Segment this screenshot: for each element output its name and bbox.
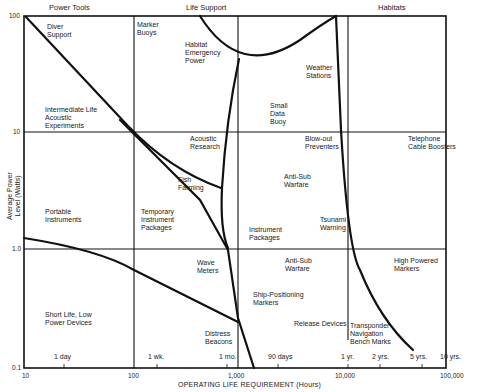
- region-temporary-instrument-packages: Temporary Instrument Packages: [141, 208, 174, 232]
- region-telephone-cable-boosters: Telephone Cable Boosters: [408, 135, 456, 151]
- region-marker-buoys: Marker Buoys: [137, 21, 159, 37]
- region-anti-sub-warfare-lower: Anti-Sub Warfare: [285, 257, 312, 273]
- power-vs-life-chart: Power Tools Life Support Habitats 100 10…: [0, 0, 480, 392]
- y-axis-label: Average Power Level (Watts): [6, 164, 22, 228]
- region-habitat-emergency-power: Habitat Emergency Power: [185, 41, 220, 65]
- x-axis-label: OPERATING LIFE REQUIREMENT (Hours): [178, 381, 321, 388]
- header-habitats: Habitats: [378, 3, 406, 12]
- region-small-data-buoy: Small Data Buoy: [270, 102, 288, 126]
- y-tick-0-1: 0.1: [12, 364, 21, 371]
- x-tick-100000: 100,000: [440, 372, 464, 379]
- x-tick-1000: 1,000: [228, 372, 244, 379]
- region-intermediate-life-acoustic: Intermediate Life Acoustic Experiments: [45, 106, 97, 130]
- region-high-powered-markers: High Powered Markers: [394, 257, 438, 273]
- lower-curve: [24, 238, 238, 322]
- region-weather-stations: Weather Stations: [306, 64, 332, 80]
- region-short-life-low-power: Short Life, Low Power Devices: [45, 311, 92, 327]
- y-tick-1: 1.0: [12, 245, 21, 252]
- x-tick-10: 10: [22, 372, 29, 379]
- y-tick-100: 100: [9, 12, 20, 19]
- region-release-devices: Release Devices: [294, 320, 347, 328]
- x-tick-100: 100: [128, 372, 139, 379]
- region-fish-farming: Fish Farming: [178, 176, 204, 192]
- duration-90-days: 90 days: [268, 353, 293, 360]
- header-power-tools: Power Tools: [49, 3, 90, 12]
- region-distress-beacons: Distress Beacons: [205, 330, 232, 346]
- life-support-left-wall: [222, 59, 239, 248]
- mid-diagonal-curve: [120, 120, 254, 368]
- region-transponder-navigation: Transponder Navigation Bench Marks: [350, 322, 391, 346]
- x-tick-10000: 10,000: [335, 372, 355, 379]
- duration-10-yrs: 10 yrs.: [440, 353, 461, 360]
- region-portable-instruments: Portable Instruments: [45, 208, 82, 224]
- duration-1-mo: 1 mo.: [219, 353, 237, 360]
- duration-2-yrs: 2 yrs.: [372, 353, 389, 360]
- region-instrument-packages: Instrument Packages: [249, 226, 282, 242]
- chart-lines: [0, 0, 480, 392]
- region-anti-sub-warfare-upper: Anti-Sub Warfare: [284, 173, 311, 189]
- region-ship-positioning-markers: Ship-Positioning Markers: [253, 291, 304, 307]
- region-tsunami-warning: Tsunami Warning: [320, 216, 346, 232]
- duration-5-yrs: 5 yrs.: [410, 353, 427, 360]
- region-acoustic-research: Acoustic Research: [190, 135, 220, 151]
- header-life-support: Life Support: [186, 3, 226, 12]
- region-wave-meters: Wave Meters: [197, 259, 218, 275]
- region-blowout-preventers: Blow-out Preventers: [305, 135, 339, 151]
- y-tick-10: 10: [13, 128, 20, 135]
- region-diver-support: Diver Support: [47, 23, 72, 39]
- duration-1-yr: 1 yr.: [341, 353, 354, 360]
- duration-1-wk: 1 wk.: [148, 353, 164, 360]
- duration-1-day: 1 day: [54, 353, 71, 360]
